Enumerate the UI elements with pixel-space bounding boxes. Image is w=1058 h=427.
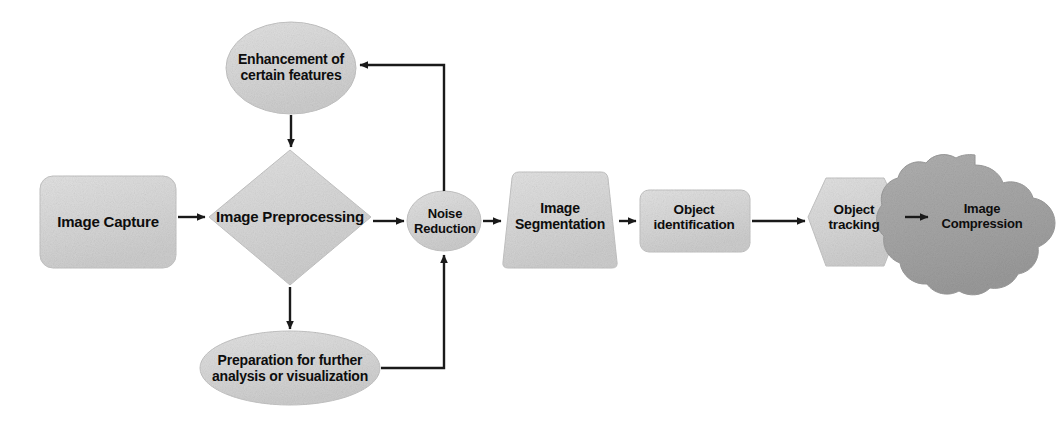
flowchart-graphics	[0, 0, 1058, 427]
node-image-capture[interactable]	[40, 176, 176, 268]
edge-noise-reduction-to-enhancement	[360, 65, 444, 191]
node-preparation-for-further-analysis[interactable]	[200, 331, 380, 405]
node-image-compression[interactable]	[877, 155, 1055, 295]
flowchart-canvas: Image Capture Image Preprocessing Enhanc…	[0, 0, 1058, 427]
node-object-identification[interactable]	[640, 190, 750, 252]
node-image-segmentation[interactable]	[503, 172, 617, 268]
node-image-preprocessing[interactable]	[209, 150, 371, 285]
node-noise-reduction[interactable]	[407, 191, 481, 251]
edge-preparation-to-noise-reduction	[381, 255, 444, 368]
node-enhancement-of-certain-features[interactable]	[226, 22, 356, 114]
